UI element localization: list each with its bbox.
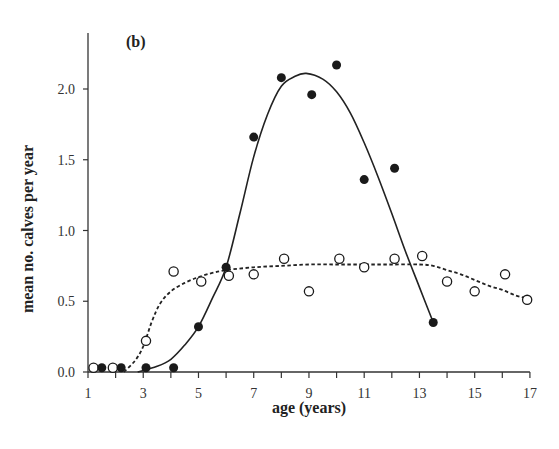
x-tick-label: 3 xyxy=(140,386,147,401)
open-fit-line xyxy=(124,264,527,372)
filled-data-point xyxy=(332,60,341,69)
open-data-point xyxy=(89,363,98,372)
x-tick-label: 15 xyxy=(468,386,482,401)
open-data-point xyxy=(249,270,258,279)
open-data-point xyxy=(360,263,369,272)
filled-data-point xyxy=(360,175,369,184)
open-data-point xyxy=(169,267,178,276)
x-tick-label: 7 xyxy=(250,386,257,401)
filled-data-point xyxy=(390,164,399,173)
open-data-point xyxy=(197,277,206,286)
x-tick-label: 13 xyxy=(412,386,426,401)
open-data-point xyxy=(442,277,451,286)
filled-data-point xyxy=(222,263,231,272)
y-tick-label: 0.0 xyxy=(58,365,76,380)
open-data-point xyxy=(141,336,150,345)
filled-data-point xyxy=(169,363,178,372)
open-data-point xyxy=(108,363,117,372)
x-tick-label: 17 xyxy=(523,386,537,401)
filled-data-point xyxy=(117,363,126,372)
filled-data-point xyxy=(249,133,258,142)
filled-fit-line xyxy=(138,73,434,372)
filled-data-point xyxy=(194,322,203,331)
calves-per-year-chart: 0.00.51.01.52.01357911131517 (b) age (ye… xyxy=(0,0,559,449)
open-data-point xyxy=(390,254,399,263)
open-data-point xyxy=(224,271,233,280)
open-data-point xyxy=(304,287,313,296)
filled-data-point xyxy=(307,90,316,99)
open-data-point xyxy=(335,254,344,263)
filled-data-point xyxy=(277,73,286,82)
axes: 0.00.51.01.52.01357911131517 xyxy=(58,33,537,401)
x-axis-title: age (years) xyxy=(272,399,346,417)
filled-data-point xyxy=(429,318,438,327)
open-data-point xyxy=(470,287,479,296)
open-data-point xyxy=(418,251,427,260)
y-tick-label: 1.0 xyxy=(58,224,76,239)
x-tick-label: 5 xyxy=(195,386,202,401)
y-tick-label: 1.5 xyxy=(58,153,76,168)
data-points xyxy=(89,60,532,372)
y-axis-title: mean no. calves per year xyxy=(19,145,37,313)
filled-data-point xyxy=(142,363,151,372)
panel-label: (b) xyxy=(126,33,146,51)
open-data-point xyxy=(280,254,289,263)
open-data-point xyxy=(500,270,509,279)
filled-data-point xyxy=(97,363,106,372)
x-tick-label: 11 xyxy=(357,386,370,401)
fit-lines xyxy=(124,73,527,372)
x-tick-label: 1 xyxy=(85,386,92,401)
y-tick-label: 2.0 xyxy=(58,82,76,97)
y-tick-label: 0.5 xyxy=(58,294,76,309)
open-data-point xyxy=(523,295,532,304)
